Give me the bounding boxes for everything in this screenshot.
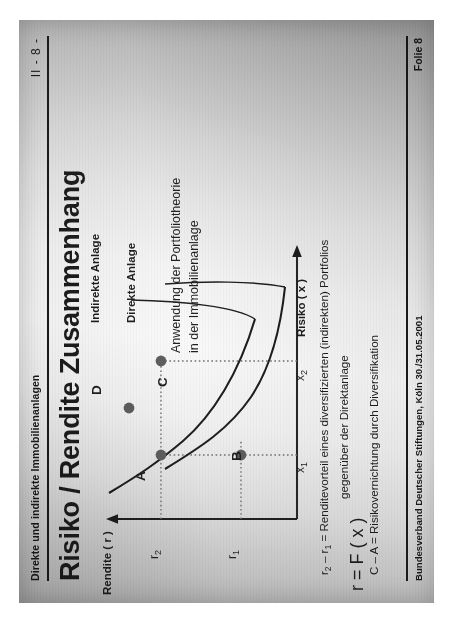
- header-section-number: II - 8 -: [29, 38, 43, 77]
- guide-lines: [161, 361, 297, 519]
- expl-r1: r: [317, 550, 330, 554]
- point-label-a: A: [133, 471, 148, 481]
- scanned-slide-page: Direkte und indirekte Immobilienanlagen …: [0, 0, 452, 623]
- expl-r1-sub: 1: [323, 545, 333, 550]
- header-topic-label: Direkte und indirekte Immobilienanlagen: [29, 375, 41, 581]
- explanation-block: r2 – r1 = Renditevorteil eines diversifi…: [315, 35, 382, 575]
- rotated-slide-wrapper: Direkte und indirekte Immobilienanlagen …: [19, 20, 434, 603]
- slide-footer: Bundesverband Deutscher Stiftungen, Köln…: [410, 38, 426, 581]
- x-tick-x1: x1: [293, 462, 309, 473]
- x-tick-x2: x2: [293, 370, 309, 381]
- risk-return-chart: Rendite ( r ) Risiko ( x ) r2 r1 x1 x2 A…: [105, 233, 313, 533]
- expl-r2: r: [317, 571, 330, 575]
- expl-r2-sub: 2: [323, 566, 333, 571]
- expl-dash-1: –: [317, 553, 330, 563]
- note-line-2: in der Immobilienanlage: [185, 73, 203, 353]
- x-axis-label: Risiko ( x ): [295, 279, 307, 337]
- explanation-line-2: gegenüber der Direktanlage: [335, 35, 352, 499]
- note-block: Anwendung der Portfoliotheorie in der Im…: [167, 73, 203, 353]
- point-label-c: C: [155, 377, 170, 387]
- point-label-d: D: [89, 385, 104, 395]
- footer-divider-rule: [406, 36, 408, 581]
- header-divider-rule: [47, 36, 49, 581]
- legend-direkte-anlage: Direkte Anlage: [125, 243, 137, 323]
- explanation-line-3: C – A = Risikovernichtung durch Diversif…: [365, 35, 382, 575]
- y-axis: [106, 514, 297, 524]
- explanation-line-1: r2 – r1 = Renditevorteil eines diversifi…: [315, 35, 335, 575]
- expl-text-1: = Renditevorteil eines diversifizierten …: [317, 240, 330, 542]
- data-point-c: [156, 356, 167, 367]
- footer-organization: Bundesverband Deutscher Stiftungen, Köln…: [413, 315, 424, 581]
- note-line-1: Anwendung der Portfoliotheorie: [167, 73, 185, 353]
- legend-indirekte-anlage: Indirekte Anlage: [89, 234, 101, 323]
- y-tick-r1: r1: [225, 550, 241, 559]
- data-point-d: [124, 403, 135, 414]
- y-axis-label: Rendite ( r ): [101, 531, 113, 595]
- y-tick-r2: r2: [147, 550, 163, 559]
- slide-header: Direkte und indirekte Immobilienanlagen …: [29, 38, 49, 581]
- data-point-a: [156, 450, 167, 461]
- slide-title: Risiko / Rendite Zusammenhang: [55, 170, 86, 581]
- presentation-slide: Direkte und indirekte Immobilienanlagen …: [19, 20, 434, 603]
- footer-slide-number: Folie 8: [412, 38, 424, 71]
- point-label-b: B: [229, 451, 244, 461]
